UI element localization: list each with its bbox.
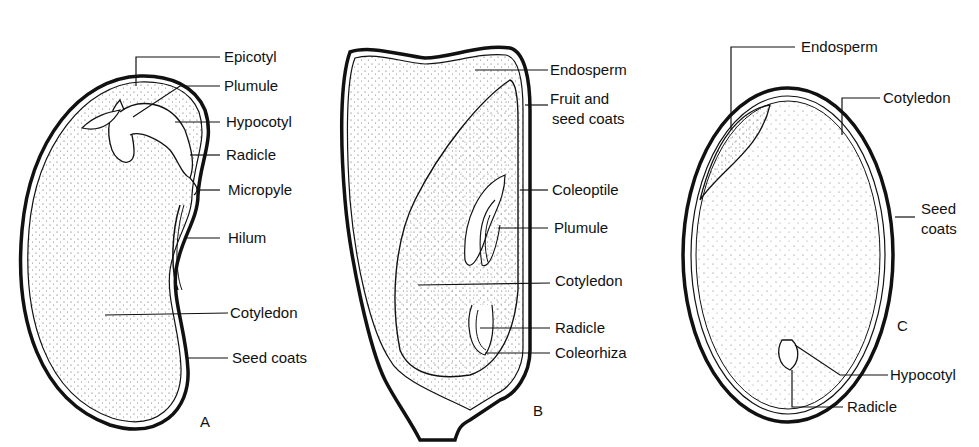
label-seed-coats-a: Seed coats: [232, 349, 307, 366]
label-seed-c: Seed: [921, 200, 956, 217]
oval-seed-drawing: [683, 88, 893, 422]
label-seed-coats-b: seed coats: [552, 110, 625, 127]
label-cotyledon-b: Cotyledon: [555, 272, 623, 289]
label-plumule-b: Plumule: [554, 219, 608, 236]
label-coleoptile-b: Coleoptile: [552, 181, 619, 198]
label-radicle-b: Radicle: [555, 319, 605, 336]
panel-letter-a: A: [200, 413, 210, 430]
bean-seed-drawing: [21, 76, 209, 429]
label-hypocotyl-c: Hypocotyl: [890, 366, 956, 383]
label-coats-c: coats: [921, 220, 957, 237]
panel-letter-c: C: [897, 317, 908, 334]
label-coleorhiza-b: Coleorhiza: [555, 344, 627, 361]
seed-diagram: [0, 0, 979, 447]
corn-kernel-drawing: [342, 47, 530, 440]
label-radicle-a: Radicle: [226, 146, 276, 163]
label-endosperm-c: Endosperm: [801, 38, 878, 55]
label-cotyledon-c: Cotyledon: [883, 89, 951, 106]
label-hilum-a: Hilum: [228, 229, 266, 246]
panel-letter-b: B: [533, 402, 543, 419]
label-plumule-a: Plumule: [224, 77, 278, 94]
label-fruit-and-b: Fruit and: [550, 90, 609, 107]
label-cotyledon-a: Cotyledon: [230, 304, 298, 321]
label-endosperm-b: Endosperm: [550, 61, 627, 78]
label-epicotyl-a: Epicotyl: [224, 48, 277, 65]
label-hypocotyl-a: Hypocotyl: [226, 113, 292, 130]
label-micropyle-a: Micropyle: [228, 181, 292, 198]
label-radicle-c: Radicle: [847, 398, 897, 415]
